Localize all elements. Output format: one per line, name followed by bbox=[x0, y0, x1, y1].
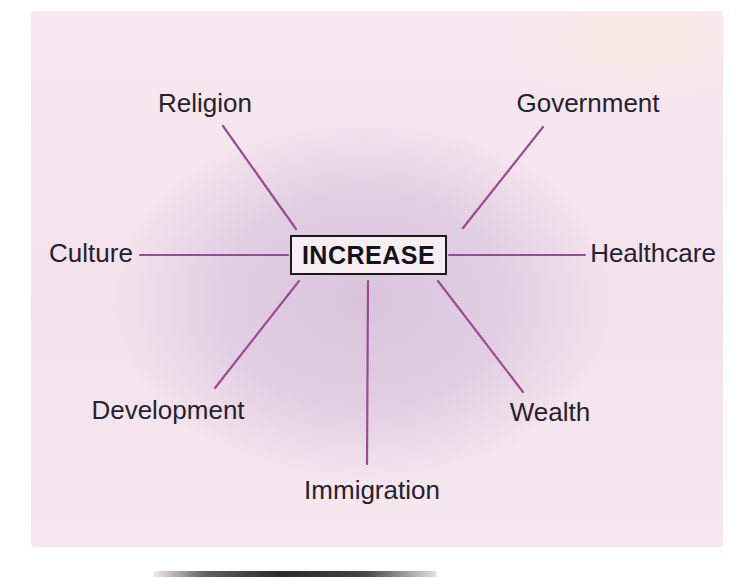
node-label-government: Government bbox=[516, 88, 659, 119]
cropped-next-figure-edge bbox=[153, 571, 437, 577]
center-node-increase: INCREASE bbox=[290, 235, 447, 275]
node-label-culture: Culture bbox=[49, 238, 133, 269]
page: INCREASE Religion Government Culture Hea… bbox=[0, 0, 751, 578]
node-label-religion: Religion bbox=[158, 88, 252, 119]
node-label-development: Development bbox=[91, 395, 244, 426]
connector-development bbox=[215, 281, 299, 388]
center-node-label: INCREASE bbox=[302, 241, 435, 270]
node-label-immigration: Immigration bbox=[304, 475, 440, 506]
connector-wealth bbox=[438, 281, 523, 392]
connector-government bbox=[463, 127, 543, 228]
connector-religion bbox=[223, 126, 296, 229]
node-label-wealth: Wealth bbox=[510, 397, 590, 428]
node-label-healthcare: Healthcare bbox=[590, 238, 716, 269]
connector-immigration bbox=[367, 281, 368, 464]
diagram-panel: INCREASE Religion Government Culture Hea… bbox=[31, 11, 723, 547]
